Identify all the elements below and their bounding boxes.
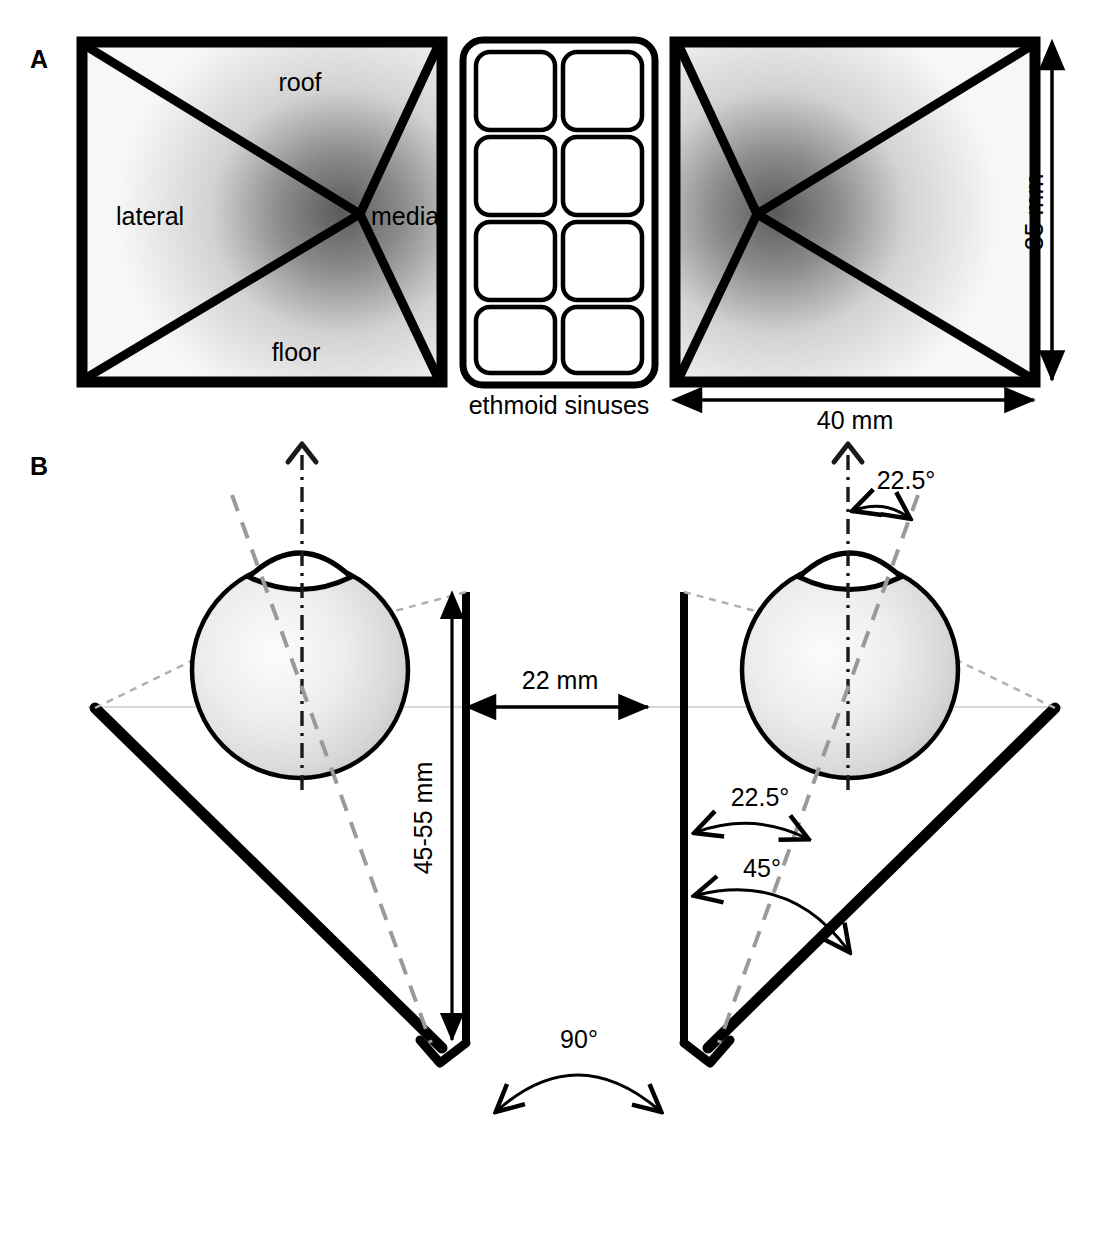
right-orbit-pyramid — [675, 42, 1035, 382]
panel-b: B 45-55 mm — [30, 444, 1062, 1110]
panel-a: A roof floor lateral medial — [30, 40, 1052, 434]
angle-lateral-walls-90: 90° — [498, 1025, 659, 1110]
panel-b-label: B — [30, 452, 48, 480]
angle-lateral-walls-label: 90° — [560, 1025, 598, 1053]
dimension-width-label: 40 mm — [817, 406, 893, 434]
ethmoid-sinuses-block: ethmoid sinuses — [463, 40, 655, 419]
angle-medial-to-lateral-label: 45° — [743, 854, 781, 882]
dimension-depth-label: 45-55 mm — [409, 762, 437, 875]
dimension-interorbital-22mm: 22 mm — [470, 666, 648, 707]
label-floor: floor — [272, 338, 321, 366]
angle-globe-deviation-label: 22.5° — [877, 466, 936, 494]
dimension-height-label: 35 mm — [1020, 174, 1048, 250]
left-globe-sphere — [192, 562, 408, 778]
angle-globe-deviation-22p5: 22.5° — [855, 466, 935, 517]
label-roof: roof — [278, 68, 321, 96]
dimension-depth-45-55mm: 45-55 mm — [409, 595, 452, 1040]
label-medial: medial — [371, 202, 445, 230]
left-orbit-pyramid: roof floor lateral medial — [82, 42, 445, 382]
label-lateral: lateral — [116, 202, 184, 230]
ethmoid-caption: ethmoid sinuses — [469, 391, 650, 419]
orbital-anatomy-figure: A roof floor lateral medial — [0, 0, 1118, 1252]
angle-medial-to-axis-label: 22.5° — [731, 783, 790, 811]
angle-medial-to-axis-22p5: 22.5° — [697, 783, 806, 838]
dimension-width-40mm: 40 mm — [676, 400, 1034, 434]
dimension-interorbital-label: 22 mm — [522, 666, 598, 694]
left-eye-globe — [192, 444, 431, 1043]
panel-a-label: A — [30, 45, 48, 73]
right-eye-globe — [719, 444, 958, 1043]
right-globe-sphere — [742, 562, 958, 778]
